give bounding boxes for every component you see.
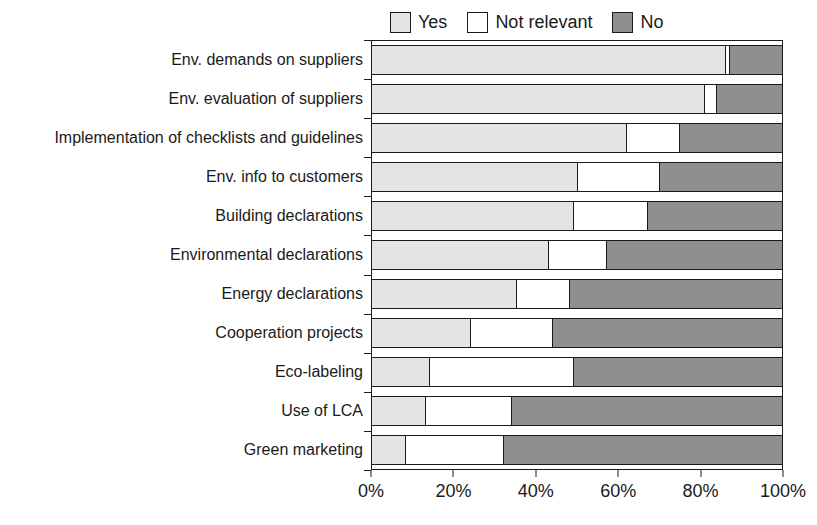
x-axis-tick xyxy=(700,470,701,477)
x-axis-tick-label: 80% xyxy=(683,481,719,502)
bar-segment-no xyxy=(552,319,782,347)
bar-segment-no xyxy=(729,46,782,74)
bar-segment-no xyxy=(647,202,782,230)
bar-segment-not-relevant xyxy=(470,319,552,347)
stacked-bar xyxy=(371,318,783,348)
legend-swatch-no xyxy=(612,12,633,33)
bar-segment-not-relevant xyxy=(704,85,716,113)
bar-track xyxy=(371,157,783,196)
bar-segment-no xyxy=(511,397,782,425)
bar-segment-no xyxy=(606,241,782,269)
bar-segment-not-relevant xyxy=(573,202,647,230)
x-axis-tick-label: 60% xyxy=(600,481,636,502)
bar-segment-not-relevant xyxy=(429,358,573,386)
chart-row: Energy declarations xyxy=(0,275,783,314)
bar-segment-yes xyxy=(372,85,704,113)
chart-row: Green marketing xyxy=(0,431,783,470)
x-axis-tick xyxy=(371,470,372,477)
category-label: Use of LCA xyxy=(0,402,371,420)
stacked-bar xyxy=(371,435,783,465)
bar-track xyxy=(371,118,783,157)
x-axis-tick xyxy=(618,470,619,477)
chart-row: Eco-labeling xyxy=(0,353,783,392)
chart-row: Cooperation projects xyxy=(0,314,783,353)
legend-label-no: No xyxy=(640,13,663,31)
category-label: Eco-labeling xyxy=(0,363,371,381)
bar-segment-not-relevant xyxy=(577,163,659,191)
category-label: Energy declarations xyxy=(0,285,371,303)
category-label: Green marketing xyxy=(0,441,371,459)
x-axis-tick-label: 20% xyxy=(435,481,471,502)
category-label: Implementation of checklists and guideli… xyxy=(0,129,371,147)
bar-segment-yes xyxy=(372,319,470,347)
bars-container: Env. demands on suppliersEnv. evaluation… xyxy=(0,40,783,470)
category-label: Env. demands on suppliers xyxy=(0,51,371,69)
stacked-bar xyxy=(371,357,783,387)
legend-label-not-relevant: Not relevant xyxy=(495,13,592,31)
bar-segment-not-relevant xyxy=(626,124,679,152)
legend-item-not-relevant: Not relevant xyxy=(467,12,592,33)
chart-row: Env. demands on suppliers xyxy=(0,40,783,79)
category-label: Env. evaluation of suppliers xyxy=(0,90,371,108)
chart-row: Building declarations xyxy=(0,196,783,235)
category-label: Building declarations xyxy=(0,207,371,225)
bar-segment-yes xyxy=(372,46,725,74)
x-axis-tick xyxy=(535,470,536,477)
x-axis-tick-label: 100% xyxy=(760,481,806,502)
stacked-bar xyxy=(371,162,783,192)
bar-track xyxy=(371,275,783,314)
bar-segment-yes xyxy=(372,163,577,191)
legend-swatch-yes xyxy=(390,12,411,33)
stacked-bar xyxy=(371,396,783,426)
bar-segment-no xyxy=(503,436,782,464)
x-axis: 0%20%40%60%80%100% xyxy=(371,470,783,510)
x-axis-tick xyxy=(783,470,784,477)
x-axis-tick-label: 0% xyxy=(358,481,384,502)
category-label: Environmental declarations xyxy=(0,246,371,264)
category-label: Env. info to customers xyxy=(0,168,371,186)
bar-track xyxy=(371,79,783,118)
bar-track xyxy=(371,314,783,353)
stacked-bar-chart: Yes Not relevant No Env. demands on supp… xyxy=(0,0,817,525)
category-label: Cooperation projects xyxy=(0,324,371,342)
bar-segment-not-relevant xyxy=(425,397,511,425)
bar-segment-not-relevant xyxy=(405,436,503,464)
chart-row: Use of LCA xyxy=(0,392,783,431)
bar-segment-yes xyxy=(372,202,573,230)
legend-item-yes: Yes xyxy=(390,12,447,33)
bar-segment-yes xyxy=(372,436,405,464)
chart-row: Env. evaluation of suppliers xyxy=(0,79,783,118)
bar-track xyxy=(371,196,783,235)
bar-track xyxy=(371,353,783,392)
stacked-bar xyxy=(371,240,783,270)
chart-row: Env. info to customers xyxy=(0,157,783,196)
bar-segment-yes xyxy=(372,124,626,152)
bar-track xyxy=(371,392,783,431)
chart-row: Environmental declarations xyxy=(0,235,783,274)
bar-segment-no xyxy=(573,358,782,386)
bar-segment-not-relevant xyxy=(516,280,569,308)
bar-track xyxy=(371,431,783,470)
bar-track xyxy=(371,235,783,274)
bar-segment-yes xyxy=(372,397,425,425)
legend: Yes Not relevant No xyxy=(390,9,663,35)
bar-segment-yes xyxy=(372,241,548,269)
stacked-bar xyxy=(371,123,783,153)
bar-segment-not-relevant xyxy=(548,241,605,269)
bar-segment-no xyxy=(659,163,782,191)
stacked-bar xyxy=(371,84,783,114)
stacked-bar xyxy=(371,201,783,231)
bar-segment-no xyxy=(716,85,782,113)
legend-label-yes: Yes xyxy=(418,13,447,31)
x-axis-tick-label: 40% xyxy=(518,481,554,502)
bar-segment-yes xyxy=(372,280,516,308)
bar-segment-no xyxy=(679,124,782,152)
bar-segment-no xyxy=(569,280,782,308)
stacked-bar xyxy=(371,279,783,309)
bar-track xyxy=(371,40,783,79)
legend-item-no: No xyxy=(612,12,663,33)
legend-swatch-not-relevant xyxy=(467,12,488,33)
x-axis-tick xyxy=(453,470,454,477)
bar-segment-yes xyxy=(372,358,429,386)
stacked-bar xyxy=(371,45,783,75)
